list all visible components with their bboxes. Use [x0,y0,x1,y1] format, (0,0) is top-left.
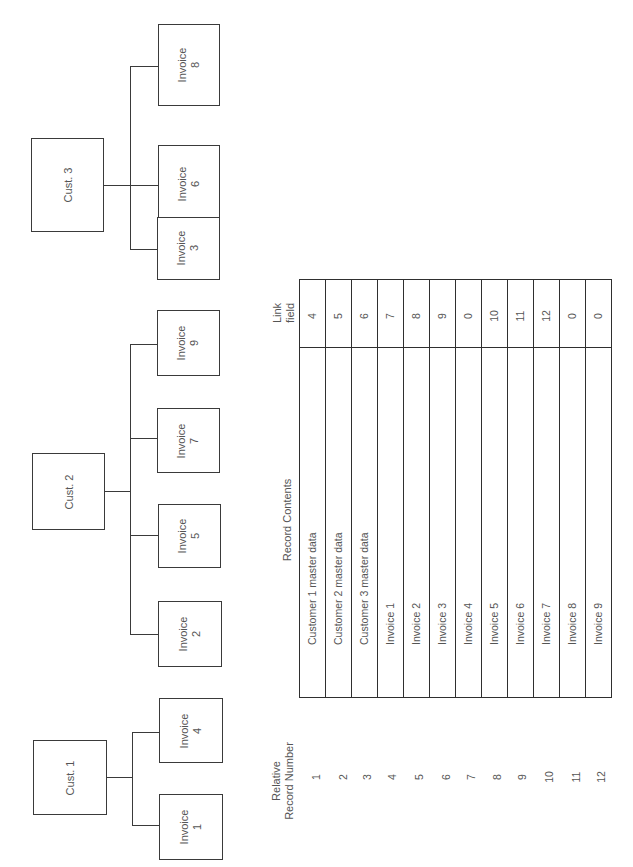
row-divider [507,279,508,698]
row-divider [377,279,378,698]
link-value: 9 [436,313,448,319]
link-value: 0 [592,313,604,319]
connector [105,491,131,492]
record-content: Invoice 6 [515,603,526,645]
row-divider [481,279,482,698]
record-number: 9 [516,774,528,780]
customer-1-label: Cust. 1 [64,761,77,796]
record-number: 7 [465,774,477,780]
record-content: Invoice 8 [567,603,578,645]
row-divider [403,279,404,698]
invoice-2-box: Invoice2 [158,601,222,667]
record-number: 2 [337,774,349,780]
trunk-line [130,66,131,250]
row-divider [429,279,430,698]
record-content: Customer 3 master data [359,532,370,645]
record-number: 12 [595,771,607,783]
record-content: Customer 2 master data [333,532,344,645]
branch-line [130,634,158,635]
invoice-3-box: Invoice3 [157,217,220,280]
invoice-8-label: Invoice8 [176,48,201,83]
invoice-5-label: Invoice5 [176,519,201,554]
invoice-1-label: Invoice1 [178,810,203,845]
trunk-line [130,344,131,635]
row-divider [455,279,456,698]
record-number: 10 [543,771,555,783]
branch-line [130,344,158,345]
record-content: Invoice 4 [463,603,474,645]
branch-line [132,732,159,733]
record-number: 4 [386,774,398,780]
customer-2-box: Cust. 2 [32,453,105,530]
row-divider [351,279,352,698]
link-value: 0 [566,313,578,319]
link-value: 4 [306,313,318,319]
invoice-8-box: Invoice8 [158,24,220,106]
record-number: 11 [570,772,582,783]
record-number: 3 [361,774,373,780]
invoice-6-label: Invoice6 [176,167,201,202]
invoice-9-label: Invoice9 [175,326,200,361]
record-content: Invoice 5 [489,603,500,645]
record-content: Customer 1 master data [307,532,318,645]
connector [107,777,133,778]
branch-line [130,185,158,186]
link-value: 7 [384,313,396,319]
link-value: 10 [488,310,500,322]
row-divider [533,279,534,698]
invoice-2-label: Invoice2 [177,617,202,652]
customer-2-label: Cust. 2 [63,475,76,510]
record-contents-header: Record Contents [281,479,294,562]
branch-line [130,535,158,536]
link-field-header: Linkfield [271,303,296,323]
record-number: 5 [413,774,425,780]
record-content: Invoice 3 [437,603,448,645]
record-content: Invoice 7 [541,603,552,645]
invoice-3-label: Invoice3 [175,231,200,266]
branch-line [132,825,159,826]
invoice-9-box: Invoice9 [157,310,220,376]
link-value: 11 [514,311,526,322]
row-divider [559,279,560,698]
row-divider [325,279,326,698]
record-number: 8 [491,774,503,780]
branch-line [130,249,158,250]
link-value: 12 [540,310,552,322]
link-value: 0 [462,313,474,319]
record-number: 1 [310,774,322,780]
record-content: Invoice 9 [593,603,604,645]
invoice-6-box: Invoice6 [158,145,220,223]
invoice-7-label: Invoice7 [175,424,200,459]
invoice-7-box: Invoice7 [157,408,220,473]
record-number: 6 [440,774,452,780]
connector [104,185,131,186]
invoice-5-box: Invoice5 [158,504,221,568]
link-value: 8 [410,313,422,319]
customer-3-box: Cust. 3 [31,138,104,232]
invoice-1-box: Invoice1 [159,794,223,860]
record-content: Invoice 2 [411,603,422,645]
row-divider [585,279,586,698]
branch-line [130,438,158,439]
link-value: 5 [332,313,344,319]
invoice-4-label: Invoice4 [178,714,203,749]
customer-1-box: Cust. 1 [33,740,107,815]
record-content: Invoice 1 [385,603,396,645]
relative-record-number-header: RelativeRecord Number [270,742,295,820]
branch-line [130,66,158,67]
customer-3-label: Cust. 3 [62,168,75,203]
invoice-4-box: Invoice4 [159,698,223,763]
link-value: 6 [358,313,370,319]
trunk-line [132,732,133,826]
